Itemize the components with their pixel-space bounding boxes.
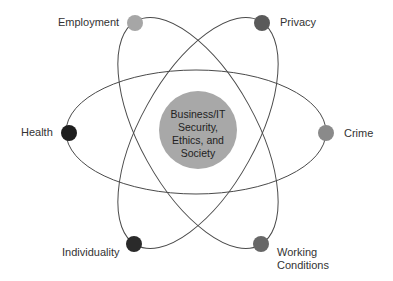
node-crime	[318, 125, 334, 141]
label-working-conditions-line-2: Conditions	[277, 259, 329, 272]
label-employment: Employment	[58, 16, 119, 29]
node-employment	[127, 15, 143, 31]
center-label: Business/IT Security, Ethics, and Societ…	[156, 108, 240, 160]
center-label-line-4: Society	[156, 147, 240, 160]
label-individuality: Individuality	[62, 246, 119, 259]
node-individuality	[126, 236, 142, 252]
label-working-conditions: Working Conditions	[277, 246, 329, 272]
label-crime: Crime	[344, 127, 373, 140]
center-label-line-2: Security,	[156, 121, 240, 134]
node-working-conditions	[253, 236, 269, 252]
center-label-line-3: Ethics, and	[156, 134, 240, 147]
label-working-conditions-line-1: Working	[277, 246, 329, 259]
label-health: Health	[21, 126, 53, 139]
node-health	[61, 125, 77, 141]
center-label-line-1: Business/IT	[156, 108, 240, 121]
label-privacy: Privacy	[280, 16, 316, 29]
node-privacy	[254, 15, 270, 31]
